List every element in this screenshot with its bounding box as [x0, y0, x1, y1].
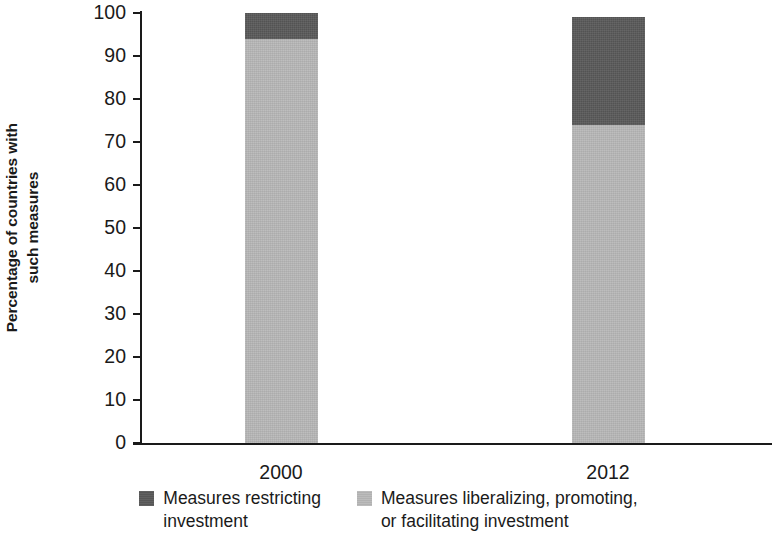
legend-swatch-liberalizing: [357, 491, 372, 506]
y-tick-label-60: 60: [80, 175, 126, 195]
legend-item-liberalizing: Measures liberalizing, promoting, or fac…: [357, 487, 638, 533]
y-axis-title: Percentage of countries with such measur…: [0, 0, 46, 455]
bar-2000-segment-restricting: [245, 13, 318, 39]
y-tick-label-80: 80: [80, 89, 126, 109]
y-tick-label-0: 0: [80, 433, 126, 453]
y-tick-label-50: 50: [80, 218, 126, 238]
x-tick-label-2000: 2000: [201, 461, 361, 484]
legend-label-liberalizing: Measures liberalizing, promoting, or fac…: [381, 487, 638, 533]
y-tick-label-40: 40: [80, 261, 126, 281]
y-axis-title-line-1: Percentage of countries with: [3, 123, 20, 332]
x-axis-line: [133, 443, 772, 445]
bar-2000: [245, 13, 318, 443]
y-tick-label-90: 90: [80, 46, 126, 66]
legend-label-restricting: Measures restricting investment: [163, 487, 321, 533]
bar-2012-segment-liberalizing: [572, 125, 645, 443]
legend-swatch-restricting: [139, 491, 154, 506]
bar-2012-segment-restricting: [572, 17, 645, 125]
plot-area: 0 10 20 30 40 50: [140, 13, 772, 443]
x-tick-label-2012: 2012: [528, 461, 688, 484]
legend-item-restricting: Measures restricting investment: [139, 487, 321, 533]
y-axis-title-line-2: such measures: [23, 123, 44, 332]
y-tick-label-30: 30: [80, 304, 126, 324]
bar-2012: [572, 17, 645, 443]
y-tick-label-20: 20: [80, 347, 126, 367]
y-axis-ticks: 0 10 20 30 40 50: [140, 13, 772, 443]
chart-legend: Measures restricting investment Measures…: [0, 487, 777, 533]
y-tick-label-100: 100: [80, 3, 126, 23]
y-tick-label-70: 70: [80, 132, 126, 152]
stacked-bar-chart: Percentage of countries with such measur…: [0, 0, 777, 542]
y-tick-label-10: 10: [80, 390, 126, 410]
bar-2000-segment-liberalizing: [245, 39, 318, 443]
